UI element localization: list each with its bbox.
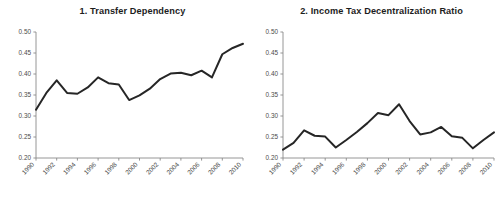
x-tick-label: 2008 — [207, 160, 222, 175]
y-tick-label: 0.30 — [266, 112, 279, 119]
figure-two-panel-line-charts: 1. Transfer Dependency 0.200.250.300.350… — [0, 0, 502, 202]
x-tick-label: 1996 — [331, 160, 346, 175]
x-tick-label: 1996 — [82, 160, 97, 175]
x-tick-label: 1992 — [41, 160, 56, 175]
x-tick-label: 1992 — [288, 160, 303, 175]
y-tick-label: 0.25 — [266, 133, 279, 140]
y-tick-label: 0.40 — [266, 70, 279, 77]
y-tick-label: 0.35 — [19, 91, 32, 98]
x-tick-label: 2002 — [144, 160, 159, 175]
series-line — [36, 44, 243, 110]
y-tick-label: 0.50 — [19, 28, 32, 35]
x-tick-label: 1998 — [103, 160, 118, 175]
y-tick-label: 0.45 — [266, 49, 279, 56]
panel-income-tax-decentralization-ratio: 2. Income Tax Decentralization Ratio 0.2… — [251, 0, 502, 202]
x-tick-label: 1994 — [62, 160, 77, 175]
x-tick-label: 2010 — [227, 160, 242, 175]
chart-plot-area-2: 0.200.250.300.350.400.450.50199019921994… — [251, 0, 502, 202]
x-tick-label: 1990 — [267, 160, 282, 175]
x-tick-label: 1990 — [20, 160, 35, 175]
y-tick-label: 0.40 — [19, 70, 32, 77]
x-tick-label: 2008 — [457, 160, 472, 175]
x-tick-label: 2006 — [186, 160, 201, 175]
x-tick-label: 2000 — [373, 160, 388, 175]
panel-transfer-dependency: 1. Transfer Dependency 0.200.250.300.350… — [0, 0, 251, 202]
x-tick-label: 1994 — [309, 160, 324, 175]
x-tick-label: 2006 — [436, 160, 451, 175]
y-tick-label: 0.25 — [19, 133, 32, 140]
series-line — [283, 104, 494, 149]
y-tick-label: 0.45 — [19, 49, 32, 56]
x-tick-label: 2000 — [124, 160, 139, 175]
chart-plot-area-1: 0.200.250.300.350.400.450.50199019921994… — [0, 0, 251, 202]
x-tick-label: 2004 — [415, 160, 430, 175]
y-tick-label: 0.35 — [266, 91, 279, 98]
x-tick-label: 1998 — [352, 160, 367, 175]
x-tick-label: 2002 — [394, 160, 409, 175]
y-tick-label: 0.30 — [19, 112, 32, 119]
y-tick-label: 0.50 — [266, 28, 279, 35]
x-tick-label: 2010 — [478, 160, 493, 175]
x-tick-label: 2004 — [165, 160, 180, 175]
